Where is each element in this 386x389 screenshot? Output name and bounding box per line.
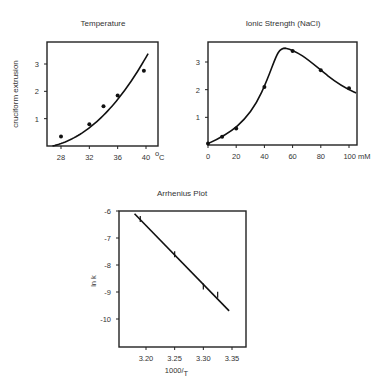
y-tick-label: -6: [104, 207, 111, 216]
data-point: [347, 86, 351, 90]
data-point: [234, 126, 238, 130]
x-tick-label: 3.25: [167, 354, 182, 363]
x-tick-label: 32: [85, 153, 93, 162]
fit-curve: [53, 54, 149, 146]
x-tick-label: 100 mM: [343, 152, 370, 161]
data-point: [102, 104, 106, 108]
y-tick-label: 1: [196, 113, 200, 122]
y-tick-label: -8: [104, 261, 111, 270]
y-tick-label: 2: [196, 86, 200, 95]
y-axis-label: ln k: [89, 275, 98, 287]
y-tick-label: 1: [35, 115, 39, 124]
y-tick-label: -7: [104, 234, 111, 243]
y-tick-label: -10: [100, 315, 111, 324]
chart-title: Temperature: [81, 19, 126, 28]
y-tick-label: 3: [35, 60, 39, 69]
data-point: [116, 93, 120, 97]
x-tick-label: 36: [113, 153, 121, 162]
ionic-strength-chart: Ionic Strength (NaCl)020406080100 mM123: [196, 19, 371, 161]
figure-canvas: Temperature28323640oC123cruciform extrus…: [0, 0, 386, 389]
data-point: [262, 85, 266, 89]
x-tick-label: 3.20: [139, 354, 154, 363]
arrhenius-chart: Arrhenius Plot3.203.253.303.35-6-7-8-9-1…: [89, 189, 246, 378]
temperature-chart: Temperature28323640oC123cruciform extrus…: [11, 19, 165, 162]
x-tick-label: 3.30: [196, 354, 211, 363]
plot-frame: [119, 211, 246, 347]
y-tick-label: 3: [196, 58, 200, 67]
data-point: [220, 135, 224, 139]
x-tick-label: 80: [317, 152, 325, 161]
fit-curve: [208, 48, 356, 143]
plot-frame: [47, 42, 158, 146]
chart-title: Ionic Strength (NaCl): [246, 19, 321, 28]
x-tick-label: 28: [57, 153, 65, 162]
fit-curve: [135, 214, 230, 311]
x-tick-label: 40: [260, 152, 268, 161]
data-point: [291, 49, 295, 53]
x-unit-label: C: [159, 153, 165, 162]
x-tick-label: 20: [232, 152, 240, 161]
x-tick-label: 3.35: [225, 354, 240, 363]
data-point: [59, 134, 63, 138]
y-axis-label: cruciform extrusion: [11, 60, 20, 128]
plot-frame: [208, 42, 357, 145]
x-tick-label: 40: [142, 153, 150, 162]
y-tick-label: -9: [104, 288, 111, 297]
x-tick-label: 60: [288, 152, 296, 161]
data-point: [319, 68, 323, 72]
x-tick-label: 0: [206, 152, 210, 161]
x-axis-label: 1000/T: [165, 366, 189, 378]
data-point: [87, 122, 91, 126]
y-tick-label: 2: [35, 87, 39, 96]
chart-title: Arrhenius Plot: [157, 189, 208, 198]
data-point: [206, 142, 210, 146]
data-point: [142, 69, 146, 73]
